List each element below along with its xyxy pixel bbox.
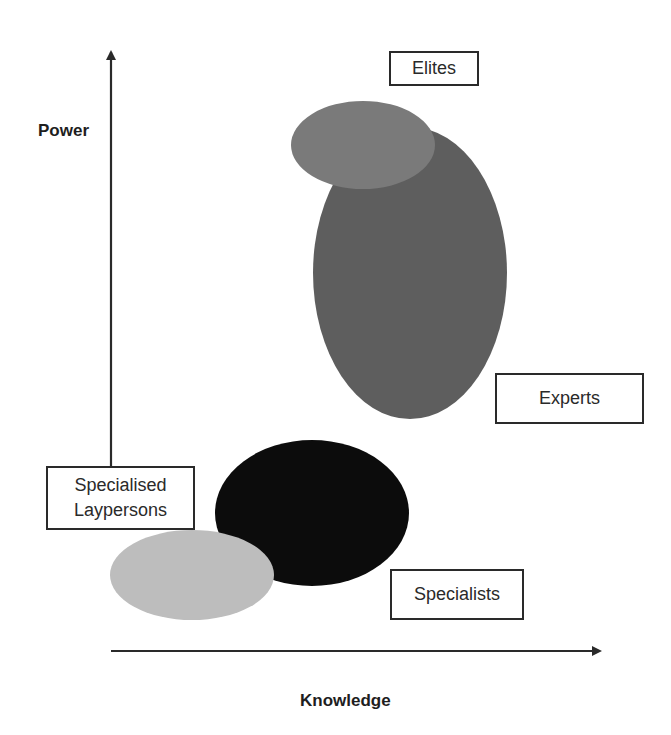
diagram-graphics (0, 0, 671, 735)
specialists-label-box: Specialists (390, 569, 524, 620)
specialised-laypersons-ellipse (110, 530, 274, 620)
specialists-label: Specialists (414, 582, 500, 607)
elites-label-box: Elites (389, 51, 479, 86)
elites-label: Elites (412, 56, 456, 81)
experts-label: Experts (539, 386, 600, 411)
specialised-laypersons-label: Specialised Laypersons (74, 473, 167, 523)
experts-label-box: Experts (495, 373, 644, 424)
x-axis-label: Knowledge (300, 691, 391, 711)
diagram-canvas: Power Knowledge Elites Experts Specialis… (0, 0, 671, 735)
specialised-laypersons-label-box: Specialised Laypersons (46, 466, 195, 530)
elites-ellipse (291, 101, 435, 189)
y-axis-label: Power (38, 121, 89, 141)
